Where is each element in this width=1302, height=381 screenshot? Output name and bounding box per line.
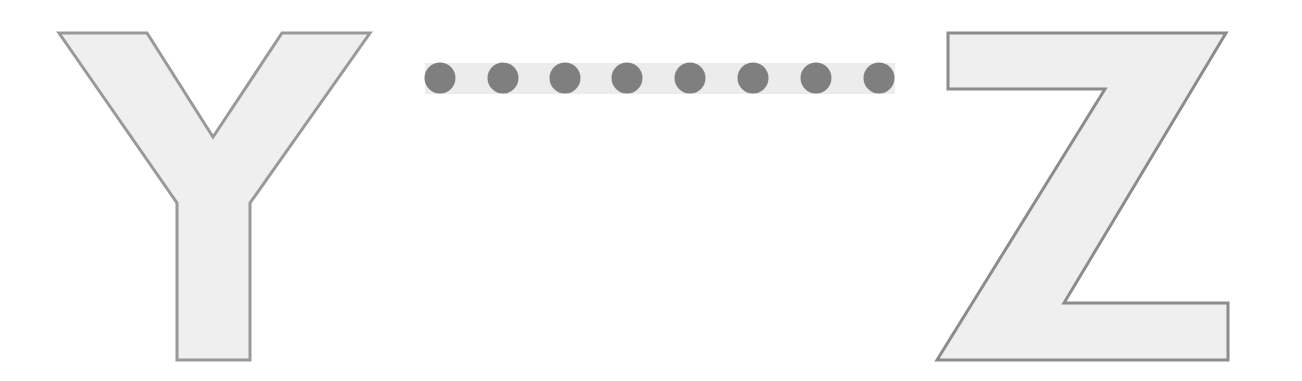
- connector-dot: [864, 63, 895, 94]
- letter-z-shape: [937, 33, 1228, 360]
- connector-dot: [801, 63, 832, 94]
- letter-y-shape: [59, 33, 370, 360]
- letter-y: [59, 33, 370, 360]
- letter-sequence-diagram: letter Y letter Z: [0, 0, 1302, 381]
- letter-z: [937, 33, 1228, 360]
- dotted-connector: [425, 63, 896, 95]
- connector-dot: [550, 63, 581, 94]
- connector-dot: [612, 63, 643, 94]
- connector-dot: [488, 63, 519, 94]
- connector-dot: [675, 63, 706, 94]
- connector-dot: [738, 63, 769, 94]
- connector-dot: [425, 63, 456, 94]
